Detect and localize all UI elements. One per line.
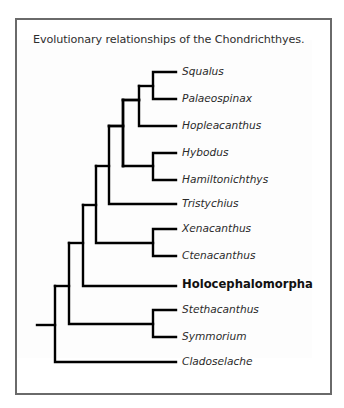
taxon-label-palaeospinax: Palaeospinax [182, 93, 252, 104]
taxon-label-ctenacanthus: Ctenacanthus [182, 250, 255, 261]
taxon-label-hamiltonichthys: Hamiltonichthys [182, 174, 268, 185]
taxon-label-hybodus: Hybodus [182, 147, 228, 158]
cladogram-tree [0, 0, 344, 408]
taxon-label-holocephalomorpha: Holocephalomorpha [182, 279, 313, 291]
taxon-label-hopleacanthus: Hopleacanthus [182, 120, 261, 131]
branch-xenacanthus-ctenacanthus [153, 229, 176, 256]
branch-stethacanthus-symmorium [153, 310, 176, 337]
taxon-label-squalus: Squalus [182, 66, 224, 77]
taxon-label-symmorium: Symmorium [182, 331, 246, 342]
branch-hybodus-hamiltonichthys [153, 153, 176, 180]
branch-hopleacanthus [139, 86, 176, 126]
taxon-label-stethacanthus: Stethacanthus [182, 304, 259, 315]
taxon-label-cladoselache: Cladoselache [182, 356, 253, 367]
branch-squalus-palaeospinax [153, 72, 176, 99]
taxon-label-xenacanthus: Xenacanthus [182, 223, 251, 234]
taxon-label-tristychius: Tristychius [182, 198, 239, 209]
branch-node-i [69, 243, 153, 324]
